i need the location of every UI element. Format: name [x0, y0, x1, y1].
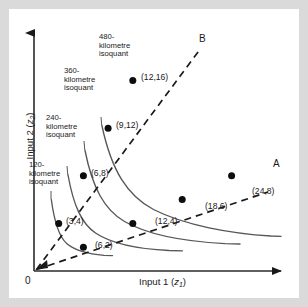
origin-label: 0: [25, 275, 31, 286]
y-axis-title: Input 2 (z2): [24, 112, 35, 159]
ray-b-line: [37, 50, 200, 270]
y-axis-title-prefix: Input 2 (: [24, 124, 35, 159]
x-axis-title-prefix: Input 1 (: [139, 276, 174, 287]
x-axis-title-suffix: ): [183, 276, 186, 287]
leader-480: [101, 117, 102, 126]
figure-frame: 120- kilometre isoquant 240- kilometre i…: [0, 0, 308, 307]
origin-arrow: [35, 260, 48, 270]
point-label-9-12: (9,12): [116, 121, 138, 131]
isoquant-curves: [51, 126, 281, 256]
data-point-9-12: [105, 125, 112, 132]
y-axis-title-var: z: [24, 120, 35, 125]
ray-a-line: [37, 192, 269, 270]
y-axis-title-sub: 2: [29, 116, 36, 120]
data-point-6-2: [80, 244, 87, 251]
data-point-12-4: [129, 220, 136, 227]
y-axis-title-wrap: Input 2 (z2): [19, 91, 37, 181]
x-axis-title: Input 1 (z1): [139, 277, 186, 288]
data-point-6-8: [80, 172, 87, 179]
isoquant-label-240: 240- kilometre isoquant: [46, 114, 77, 140]
point-label-18-6: (18,6): [205, 202, 227, 212]
data-point-24-8: [228, 172, 235, 179]
isoquant-chart: [9, 9, 299, 298]
point-label-12-16: (12,16): [141, 73, 168, 83]
isoquant-curve-480: [102, 126, 281, 236]
leader-360: [84, 141, 85, 150]
plot-area: 120- kilometre isoquant 240- kilometre i…: [9, 9, 299, 298]
leader-240: [67, 166, 68, 175]
isoquant-label-360: 360- kilometre isoquant: [64, 67, 95, 93]
point-label-24-8: (24,8): [252, 187, 274, 197]
y-axis-title-suffix: ): [24, 112, 35, 115]
ray-label-a: A: [273, 158, 280, 169]
point-label-12-4: (12,4): [155, 217, 177, 227]
ray-label-b: B: [199, 33, 206, 44]
data-point-18-6: [179, 196, 186, 203]
isoquant-curve-240: [68, 175, 183, 251]
point-label-6-8: (6,8): [91, 169, 109, 179]
point-label-3-4: (3,4): [66, 217, 84, 227]
data-point-3-4: [55, 220, 62, 227]
point-label-6-2: (6,2): [95, 241, 113, 251]
isoquant-label-480: 480- kilometre isoquant: [99, 33, 130, 59]
data-point-12-16: [129, 77, 136, 84]
